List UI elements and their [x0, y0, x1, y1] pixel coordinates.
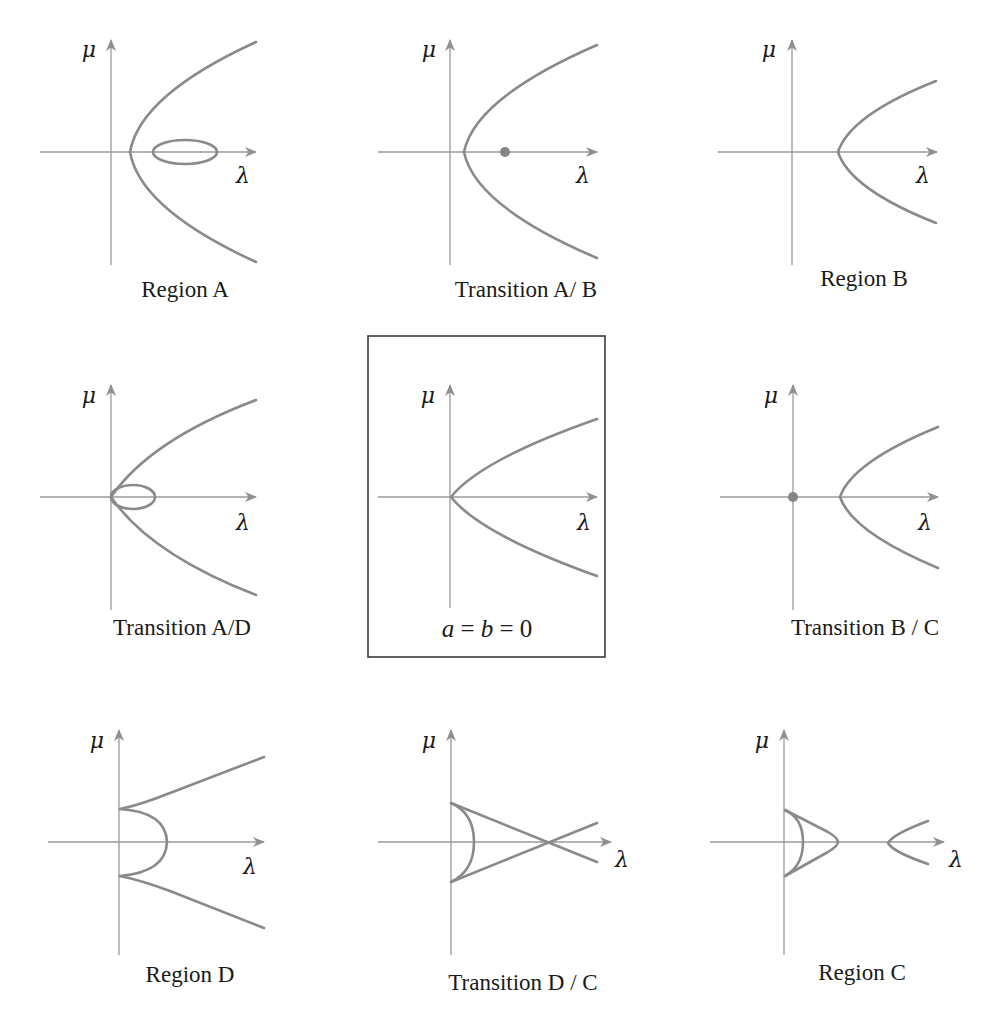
- bifurcation-curve: [120, 757, 264, 809]
- mu-axis-label: μ: [422, 37, 436, 62]
- panel-transition-b-c: μλTransition B / C: [720, 383, 939, 640]
- panel-transition-a-d: μλTransition A/D: [40, 383, 256, 640]
- panel-caption: Transition B / C: [791, 615, 939, 640]
- mu-axis-label: μ: [764, 383, 778, 408]
- panel-transition-d-c: μλTransition D / C: [378, 728, 629, 995]
- bifurcation-curve: [785, 810, 838, 876]
- mu-axis-label: μ: [755, 728, 769, 753]
- panel-caption: Region D: [146, 962, 235, 987]
- mu-axis-label: μ: [762, 37, 776, 62]
- panels-container: μλRegion AμλTransition A/ BμλRegion BμλT…: [40, 37, 963, 995]
- panel-caption: Transition D / C: [448, 970, 597, 995]
- panel-caption: Region B: [820, 266, 908, 291]
- lambda-axis-label: λ: [614, 847, 629, 872]
- panel-caption: a = b = 0: [442, 615, 533, 642]
- lambda-axis-label: λ: [915, 163, 930, 188]
- panel-degenerate-center: μλa = b = 0: [368, 336, 605, 657]
- lambda-axis-label: λ: [242, 854, 257, 879]
- mu-axis-label: μ: [90, 728, 104, 753]
- isolated-point: [500, 147, 510, 157]
- lambda-axis-label: λ: [575, 163, 590, 188]
- lambda-axis-label: λ: [917, 510, 932, 535]
- mu-axis-label: μ: [421, 383, 435, 408]
- panel-caption: Transition A/ B: [455, 277, 597, 302]
- panel-region-a: μλRegion A: [40, 37, 256, 302]
- bifurcation-curve: [120, 876, 264, 928]
- panel-region-c: μλRegion C: [710, 728, 963, 985]
- panel-caption: Region C: [818, 960, 906, 985]
- isolated-point: [788, 492, 798, 502]
- panel-region-d: μλRegion D: [48, 728, 264, 987]
- panel-region-b: μλRegion B: [718, 37, 937, 291]
- lambda-axis-label: λ: [948, 847, 963, 872]
- lambda-axis-label: λ: [576, 510, 591, 535]
- panel-transition-a-b: μλTransition A/ B: [378, 37, 597, 302]
- mu-axis-label: μ: [422, 728, 436, 753]
- mu-axis-label: μ: [82, 37, 96, 62]
- panel-caption: Transition A/D: [113, 615, 251, 640]
- lambda-axis-label: λ: [235, 163, 250, 188]
- lambda-axis-label: λ: [235, 510, 250, 535]
- mu-axis-label: μ: [82, 383, 96, 408]
- bifurcation-diagram-grid: μλRegion AμλTransition A/ BμλRegion BμλT…: [0, 0, 997, 1019]
- panel-caption: Region A: [141, 277, 229, 302]
